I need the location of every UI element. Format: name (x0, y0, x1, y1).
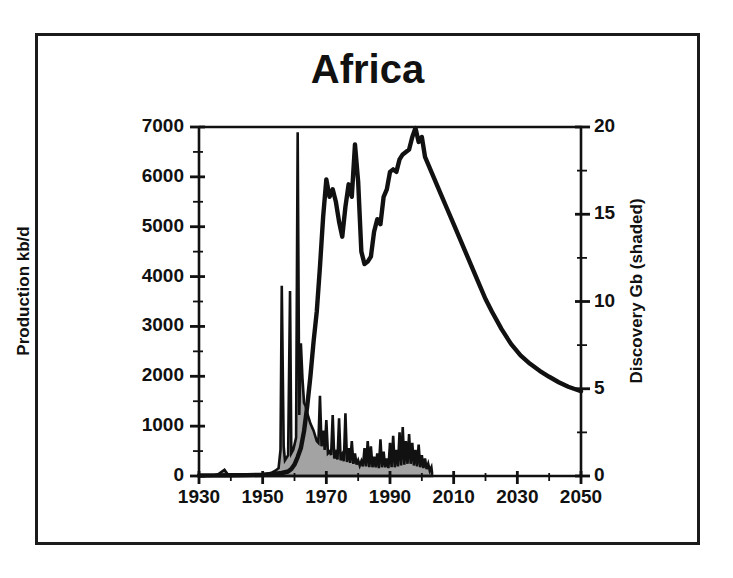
x-tick-2010: 2010 (424, 486, 484, 508)
y-right-tick-0: 0 (594, 464, 634, 486)
y-left-tick-1000: 1000 (112, 414, 184, 436)
y-axis-left-title: Production kb/d (14, 226, 34, 355)
y-left-tick-7000: 7000 (112, 115, 184, 137)
plot-area: Production kb/d Discovery Gb (shaded) 01… (38, 36, 703, 548)
y-right-tick-5: 5 (594, 377, 634, 399)
y-left-tick-2000: 2000 (112, 364, 184, 386)
y-left-tick-3000: 3000 (112, 314, 184, 336)
x-tick-1970: 1970 (296, 486, 356, 508)
y-left-tick-4000: 4000 (112, 265, 184, 287)
y-right-tick-20: 20 (594, 115, 634, 137)
y-left-tick-0: 0 (112, 464, 184, 486)
x-tick-1990: 1990 (360, 486, 420, 508)
x-tick-1930: 1930 (169, 486, 229, 508)
y-left-tick-6000: 6000 (112, 165, 184, 187)
x-tick-1950: 1950 (233, 486, 293, 508)
chart-screenshot: Africa Production kb/d Discovery Gb (sha… (0, 0, 733, 578)
y-left-tick-5000: 5000 (112, 215, 184, 237)
x-tick-2050: 2050 (551, 486, 611, 508)
production-line-series (199, 128, 581, 476)
y-right-tick-10: 10 (594, 290, 634, 312)
chart-frame: Africa Production kb/d Discovery Gb (sha… (35, 33, 700, 545)
x-tick-2030: 2030 (487, 486, 547, 508)
y-right-tick-15: 15 (594, 202, 634, 224)
